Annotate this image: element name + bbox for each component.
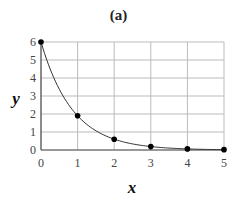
x-tick-label: 1 — [75, 156, 81, 170]
y-tick-label: 5 — [30, 53, 36, 67]
x-tick-label: 3 — [148, 156, 154, 170]
x-tick-label: 4 — [184, 156, 190, 170]
grid-lines — [41, 42, 224, 150]
data-point — [75, 113, 81, 119]
x-tick-label: 5 — [221, 156, 227, 170]
y-tick-label: 1 — [30, 125, 36, 139]
x-tick-label: 2 — [111, 156, 117, 170]
y-tick-label: 2 — [30, 107, 36, 121]
data-point — [221, 147, 227, 153]
y-tick-label: 4 — [30, 71, 36, 85]
y-tick-label: 3 — [30, 89, 36, 103]
x-tick-label: 0 — [38, 156, 44, 170]
data-point — [111, 136, 117, 142]
y-axis-label: y — [10, 89, 20, 108]
y-tick-label: 6 — [30, 35, 36, 49]
chart-plot: 0123456012345 x y — [0, 0, 237, 206]
y-tick-label: 0 — [30, 143, 36, 157]
x-axis-label: x — [127, 178, 137, 197]
data-point — [185, 146, 191, 152]
data-point — [38, 39, 44, 45]
data-point — [148, 144, 154, 150]
